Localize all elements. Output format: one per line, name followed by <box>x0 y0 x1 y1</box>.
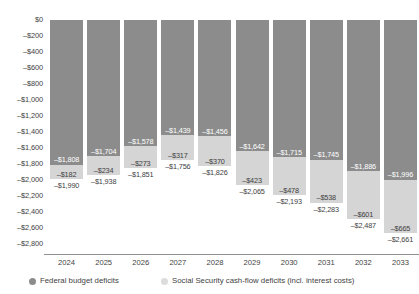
x-axis-tick-label: 2028 <box>196 259 233 267</box>
legend-label: Federal budget deficits <box>40 277 119 285</box>
y-axis-tick-label: –$1,800 <box>17 160 43 167</box>
x-axis-tick-label: 2029 <box>234 259 271 267</box>
y-axis-tick-label: –$400 <box>23 48 43 55</box>
bar-segment-social-security-deficit[interactable]: –$370 <box>198 136 231 166</box>
bar-segment-federal-deficit[interactable]: –$1,715 <box>273 20 306 157</box>
bar-column[interactable]: –$1,808–$182–$1,990 <box>50 0 83 254</box>
bar-total-label: –$1,938 <box>83 178 124 185</box>
bar-segment-federal-deficit[interactable]: –$1,578 <box>124 20 157 146</box>
bar-total-label: –$1,851 <box>120 171 161 178</box>
bar-stack: –$1,715–$478 <box>273 20 306 195</box>
bar-segment-value-label: –$234 <box>87 167 120 174</box>
bar-stack: –$1,642–$423 <box>236 20 269 185</box>
bar-stack: –$1,439–$317 <box>161 20 194 160</box>
bar-segment-social-security-deficit[interactable]: –$317 <box>161 135 194 160</box>
bar-segment-social-security-deficit[interactable]: –$423 <box>236 151 269 185</box>
bar-segment-value-label: –$1,996 <box>384 171 417 178</box>
bar-stack: –$1,808–$182 <box>50 20 83 179</box>
bar-total-label: –$1,756 <box>157 163 198 170</box>
bar-segment-federal-deficit[interactable]: –$1,642 <box>236 20 269 151</box>
x-axis-line <box>44 254 419 255</box>
bar-stack: –$1,745–$538 <box>310 20 343 203</box>
legend-label: Social Security cash-flow deficits (incl… <box>172 277 354 285</box>
bar-column[interactable]: –$1,456–$370–$1,826 <box>198 0 231 254</box>
bar-segment-value-label: –$1,642 <box>236 143 269 150</box>
bar-segment-federal-deficit[interactable]: –$1,996 <box>384 20 417 180</box>
x-axis-tick-label: 2024 <box>48 259 85 267</box>
bar-total-label: –$2,283 <box>306 206 347 213</box>
plot-area: –$1,808–$182–$1,990–$1,704–$234–$1,938–$… <box>48 0 419 254</box>
bar-segment-value-label: –$601 <box>347 211 380 218</box>
bar-column[interactable]: –$1,578–$273–$1,851 <box>124 0 157 254</box>
y-axis-tick-label: –$2,800 <box>17 240 43 247</box>
bar-segment-value-label: –$665 <box>384 225 417 232</box>
bar-segment-social-security-deficit[interactable]: –$273 <box>124 146 157 168</box>
bar-total-label: –$2,661 <box>380 236 419 243</box>
y-axis-tick-label: –$200 <box>23 32 43 39</box>
y-axis-tick-label: –$2,200 <box>17 192 43 199</box>
x-axis-tick-label: 2033 <box>382 259 419 267</box>
bar-segment-federal-deficit[interactable]: –$1,808 <box>50 20 83 165</box>
bar-segment-value-label: –$317 <box>161 152 194 159</box>
bar-segment-value-label: –$1,456 <box>198 128 231 135</box>
bar-column[interactable]: –$1,704–$234–$1,938 <box>87 0 120 254</box>
y-axis-tick-label: $0 <box>35 16 43 23</box>
bar-segment-federal-deficit[interactable]: –$1,439 <box>161 20 194 135</box>
bar-segment-value-label: –$1,715 <box>273 149 306 156</box>
bar-segment-social-security-deficit[interactable]: –$478 <box>273 157 306 195</box>
bar-segment-value-label: –$1,578 <box>124 138 157 145</box>
bar-segment-federal-deficit[interactable]: –$1,704 <box>87 20 120 156</box>
bar-stack: –$1,578–$273 <box>124 20 157 168</box>
bar-segment-value-label: –$423 <box>236 177 269 184</box>
x-axis-tick-label: 2025 <box>85 259 122 267</box>
bar-total-label: –$2,487 <box>343 222 384 229</box>
x-axis: 2024202520262027202820292030203120322033 <box>48 256 419 272</box>
bar-column[interactable]: –$1,642–$423–$2,065 <box>236 0 269 254</box>
bar-segment-federal-deficit[interactable]: –$1,886 <box>347 20 380 171</box>
x-axis-tick-label: 2026 <box>122 259 159 267</box>
legend-swatch-circle-icon <box>161 278 168 285</box>
bar-segment-social-security-deficit[interactable]: –$601 <box>347 171 380 219</box>
deficit-stacked-bar-chart: $0–$200–$400–$600–$800–$1,000–$1,200–$1,… <box>0 0 419 294</box>
bar-column[interactable]: –$1,886–$601–$2,487 <box>347 0 380 254</box>
bar-segment-value-label: –$1,886 <box>347 163 380 170</box>
bar-segment-value-label: –$478 <box>273 187 306 194</box>
bar-column[interactable]: –$1,745–$538–$2,283 <box>310 0 343 254</box>
bar-segment-social-security-deficit[interactable]: –$234 <box>87 156 120 175</box>
x-axis-tick-label: 2030 <box>271 259 308 267</box>
y-axis-tick-label: –$1,200 <box>17 112 43 119</box>
bar-segment-social-security-deficit[interactable]: –$665 <box>384 180 417 233</box>
bar-column[interactable]: –$1,439–$317–$1,756 <box>161 0 194 254</box>
bar-stack: –$1,996–$665 <box>384 20 417 233</box>
y-axis-tick-label: –$2,400 <box>17 208 43 215</box>
legend-item[interactable]: Federal budget deficits <box>29 274 119 288</box>
x-axis-tick-label: 2032 <box>345 259 382 267</box>
bar-segment-value-label: –$538 <box>310 194 343 201</box>
bar-segment-value-label: –$1,439 <box>161 127 194 134</box>
x-axis-tick-label: 2031 <box>308 259 345 267</box>
y-axis-tick-label: –$2,600 <box>17 224 43 231</box>
bar-segment-value-label: –$1,745 <box>310 151 343 158</box>
y-axis-tick-label: –$1,400 <box>17 128 43 135</box>
chart-legend: Federal budget deficitsSocial Security c… <box>0 274 419 294</box>
bar-segment-value-label: –$182 <box>50 171 83 178</box>
bar-segment-federal-deficit[interactable]: –$1,456 <box>198 20 231 136</box>
y-axis-tick-label: –$800 <box>23 80 43 87</box>
y-axis: $0–$200–$400–$600–$800–$1,000–$1,200–$1,… <box>0 0 48 258</box>
bar-column[interactable]: –$1,996–$665–$2,661 <box>384 0 417 254</box>
bar-segment-social-security-deficit[interactable]: –$538 <box>310 160 343 203</box>
bar-stack: –$1,456–$370 <box>198 20 231 166</box>
bar-segment-value-label: –$1,808 <box>50 156 83 163</box>
bar-column[interactable]: –$1,715–$478–$2,193 <box>273 0 306 254</box>
y-axis-tick-label: –$1,000 <box>17 96 43 103</box>
bar-segment-federal-deficit[interactable]: –$1,745 <box>310 20 343 160</box>
legend-item[interactable]: Social Security cash-flow deficits (incl… <box>161 274 354 288</box>
bar-segment-social-security-deficit[interactable]: –$182 <box>50 165 83 180</box>
bar-total-label: –$2,065 <box>232 188 273 195</box>
bar-total-label: –$1,990 <box>46 182 87 189</box>
bar-segment-value-label: –$273 <box>124 160 157 167</box>
bar-total-label: –$1,826 <box>194 169 235 176</box>
bar-stack: –$1,886–$601 <box>347 20 380 219</box>
bar-segment-value-label: –$1,704 <box>87 148 120 155</box>
y-axis-tick-label: –$2,000 <box>17 176 43 183</box>
